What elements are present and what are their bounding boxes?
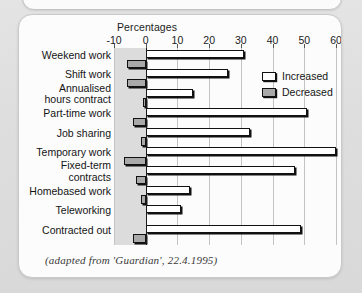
bar-row — [114, 186, 336, 205]
chart-legend: Increased Decreased — [262, 70, 333, 102]
legend-swatch-decreased — [262, 88, 276, 97]
bar-row — [114, 166, 336, 185]
bar-increased — [146, 147, 336, 155]
figure-caption: (adapted from 'Guardian', 22.4.1995) — [45, 254, 217, 266]
category-label: Job sharing — [19, 128, 111, 140]
legend-label-increased: Increased — [282, 70, 328, 82]
bar-decreased — [133, 234, 146, 243]
bar-increased — [146, 166, 295, 174]
upper-card-edge — [22, 0, 342, 10]
chart-title: Percentages — [117, 21, 177, 33]
bar-increased — [146, 225, 301, 233]
category-label: Temporary work — [19, 147, 111, 159]
category-label: Shift work — [19, 69, 111, 81]
bar-row — [114, 147, 336, 166]
bar-increased — [146, 108, 308, 116]
bar-decreased — [124, 157, 146, 166]
bar-increased — [146, 205, 181, 213]
category-label: Homebased work — [19, 186, 111, 198]
category-label: Weekend work — [19, 50, 111, 62]
bar-increased — [146, 50, 244, 58]
legend-item-decreased: Decreased — [262, 86, 333, 98]
category-label: Contracted out — [19, 225, 111, 237]
bar-row — [114, 108, 336, 127]
legend-swatch-increased — [262, 72, 276, 81]
category-label: Annualised hours contract — [19, 83, 111, 106]
bar-increased — [146, 186, 190, 194]
bar-increased — [146, 89, 194, 97]
bar-decreased — [127, 60, 146, 69]
bar-chart: Percentages -100102030405060 Weekend wor… — [19, 15, 341, 247]
bar-row — [114, 50, 336, 69]
bar-increased — [146, 69, 228, 77]
category-label: Teleworking — [19, 205, 111, 217]
category-label: Fixed-term contracts — [19, 160, 111, 183]
bar-row — [114, 128, 336, 147]
bar-decreased — [136, 176, 146, 185]
bar-row — [114, 225, 336, 244]
zero-axis-line — [146, 48, 148, 245]
bar-decreased — [127, 79, 146, 88]
bar-row — [114, 205, 336, 224]
legend-label-decreased: Decreased — [282, 86, 333, 98]
bar-decreased — [133, 118, 146, 127]
bar-increased — [146, 128, 251, 136]
legend-item-increased: Increased — [262, 70, 333, 82]
figure-card: Percentages -100102030405060 Weekend wor… — [18, 14, 342, 278]
gridline-60 — [336, 48, 337, 245]
category-label: Part-time work — [19, 108, 111, 120]
